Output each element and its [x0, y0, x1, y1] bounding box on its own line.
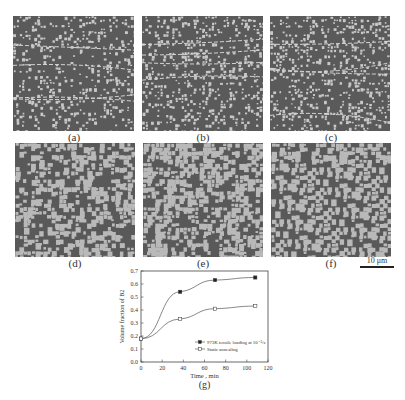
cropped-caption-text [8, 0, 68, 4]
panel-label-d: (d) [55, 257, 95, 269]
legend-entry: 973K tensile loading at 10⁻³/s [207, 340, 265, 345]
scale-bar: 10 μm [360, 256, 394, 268]
panel-label-c: (c) [311, 131, 351, 143]
y-tick-label: 0.2 [131, 333, 139, 339]
x-tick-label: 100 [242, 365, 251, 371]
y-tick-label: 0.5 [131, 294, 139, 300]
micrograph-d [15, 143, 135, 257]
data-point [254, 276, 257, 279]
data-point [179, 318, 182, 321]
x-tick-label: 60 [202, 365, 208, 371]
panel-label-a: (a) [54, 131, 94, 143]
x-tick-label: 20 [159, 365, 165, 371]
data-point [179, 290, 182, 293]
y-tick-label: 0.6 [131, 281, 139, 287]
micrograph-f [271, 143, 391, 257]
panel-label-f: (f) [311, 257, 351, 269]
micrograph-b [142, 16, 263, 131]
micrograph-e [143, 143, 263, 257]
y-tick-label: 0.7 [131, 268, 139, 274]
x-tick-label: 120 [264, 365, 273, 371]
x-axis-label: Time , min [190, 372, 219, 379]
y-tick-label: 0.1 [131, 346, 139, 352]
x-tick-label: 80 [223, 365, 229, 371]
panel-label-b: (b) [183, 131, 223, 143]
data-point [213, 307, 216, 310]
series-line-0 [141, 278, 255, 339]
series-line-1 [141, 306, 255, 339]
scale-bar-line [360, 266, 394, 268]
micrograph-c [270, 16, 390, 131]
scale-bar-label: 10 μm [360, 256, 394, 265]
data-point [254, 305, 257, 308]
y-tick-label: 0.3 [131, 320, 139, 326]
y-axis-label: Volume fraction of B2 [119, 290, 125, 344]
volume-fraction-chart: 0.00.10.20.30.40.50.60.7020406080100120T… [110, 264, 285, 394]
x-tick-label: 0 [140, 365, 143, 371]
legend-entry: Static annealing [207, 347, 238, 352]
micrograph-a [13, 16, 134, 131]
y-tick-label: 0.4 [131, 307, 139, 313]
panel-label-g: (g) [199, 379, 211, 391]
y-tick-label: 0.0 [131, 359, 139, 365]
data-point [139, 337, 142, 340]
data-point [213, 279, 216, 282]
x-tick-label: 40 [180, 365, 186, 371]
